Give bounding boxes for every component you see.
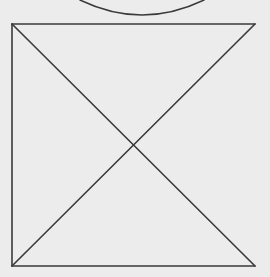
diagram-canvas bbox=[0, 0, 270, 277]
circle-arc bbox=[80, 0, 204, 15]
